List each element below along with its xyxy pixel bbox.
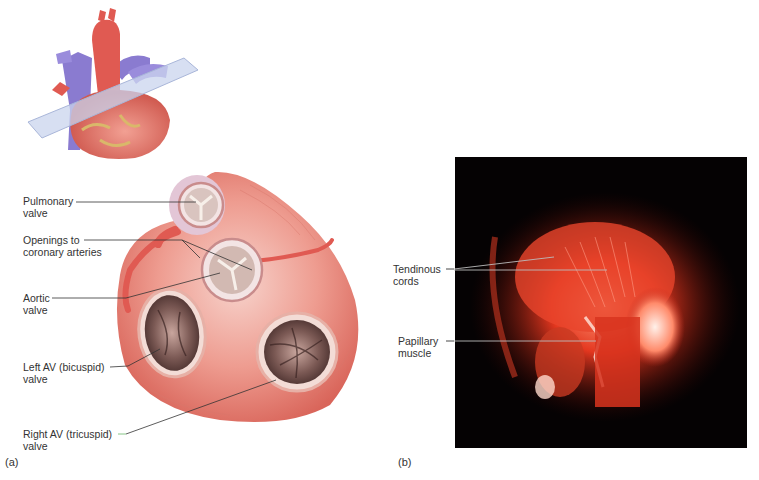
- label-aortic-valve: Aortic valve: [23, 292, 50, 316]
- dissection-photo: [455, 157, 747, 448]
- panel-b-letter: (b): [398, 456, 411, 468]
- label-pulmonary-valve: Pulmonary valve: [23, 195, 73, 219]
- heart-cross-section: [117, 172, 358, 422]
- label-right-av-valve: Right AV (tricuspid) valve: [23, 428, 112, 452]
- label-coronary-openings: Openings to coronary arteries: [23, 234, 102, 258]
- label-tendinous-cords: Tendinous cords: [393, 263, 441, 287]
- label-left-av-valve: Left AV (bicuspid) valve: [23, 361, 105, 385]
- inset-heart: [28, 8, 198, 159]
- panel-a-letter: (a): [5, 456, 18, 468]
- label-papillary-muscle: Papillary muscle: [398, 335, 438, 359]
